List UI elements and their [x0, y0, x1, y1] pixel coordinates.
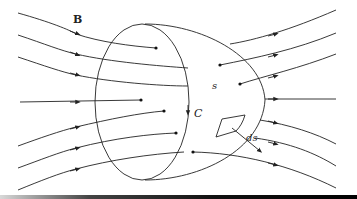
label-ds: ds: [246, 132, 258, 143]
flux-diagram: B s C ds: [0, 0, 357, 199]
bottom-border: [0, 195, 357, 199]
field-line-4: [20, 100, 141, 102]
field-line-5: [18, 111, 164, 146]
surface-s: [145, 24, 265, 180]
label-c: C: [194, 107, 203, 120]
curve-c: [95, 24, 189, 180]
field-line-7: [18, 152, 184, 190]
field-line-out-5: [260, 120, 336, 144]
field-line-1: [18, 13, 156, 48]
field-line-2: [18, 35, 188, 68]
field-line-out-3: [240, 54, 336, 84]
label-b: B: [73, 13, 82, 26]
field-line-3: [18, 57, 188, 86]
label-s: s: [212, 80, 217, 91]
field-line-out-7: [193, 152, 336, 188]
field-line-6: [18, 133, 176, 168]
surface-element-ds: [216, 115, 245, 137]
